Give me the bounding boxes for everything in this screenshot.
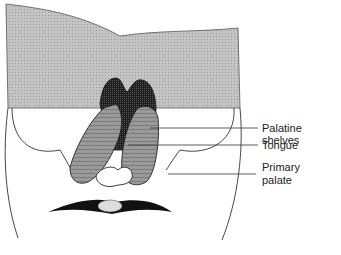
primary-palate bbox=[96, 167, 132, 186]
palate-diagram: Palatine shelves Tongue Primary palate bbox=[0, 0, 341, 255]
label-primary-palate-line2: palate bbox=[262, 174, 292, 186]
lower-tongue-tip bbox=[98, 200, 122, 212]
label-tongue: Tongue bbox=[262, 139, 298, 151]
cheek-right bbox=[166, 108, 234, 170]
label-primary-palate-line1: Primary bbox=[262, 161, 300, 173]
cheek-left bbox=[12, 108, 72, 170]
